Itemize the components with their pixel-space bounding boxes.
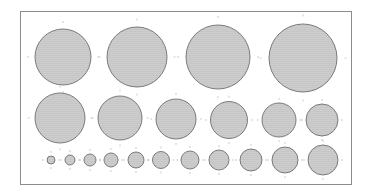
row-1-large xyxy=(27,15,347,102)
circle-shape xyxy=(269,24,337,92)
circle-shape xyxy=(272,147,298,173)
row-3-small xyxy=(42,140,343,180)
circle-shape xyxy=(262,103,296,137)
circle-shape xyxy=(84,154,96,166)
circle-shape xyxy=(308,145,338,175)
circle-shape xyxy=(186,25,250,89)
circle-diagram xyxy=(0,0,367,193)
circle-shape xyxy=(128,152,144,168)
circle-shape xyxy=(65,155,75,165)
circle-shape xyxy=(211,102,248,139)
circle-shape xyxy=(156,99,196,139)
circle-shape xyxy=(35,29,91,85)
circle-shape xyxy=(107,27,167,87)
row-2-medium xyxy=(28,86,343,151)
circle-shape xyxy=(47,156,55,164)
circle-shape xyxy=(306,104,338,136)
circle-shape xyxy=(240,149,262,171)
circle-shape xyxy=(98,96,142,140)
circle-shape xyxy=(104,153,118,167)
circles-canvas xyxy=(0,0,367,193)
circle-shape xyxy=(209,150,229,170)
circle-shape xyxy=(35,93,85,143)
circle-shape xyxy=(181,151,199,169)
circle-shape xyxy=(153,152,170,169)
